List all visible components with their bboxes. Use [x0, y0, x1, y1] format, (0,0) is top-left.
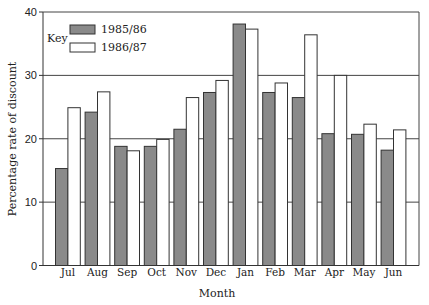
x-tick-label: Apr — [324, 266, 345, 278]
legend-swatch-1986-87 — [70, 43, 95, 52]
bar-jan-1985-86 — [233, 24, 245, 265]
x-tick-label: Feb — [265, 266, 285, 278]
y-tick-label: 30 — [25, 69, 37, 81]
x-tick-label: Jun — [384, 266, 403, 278]
bar-nov-1986-87 — [186, 98, 198, 266]
legend-title: Key — [47, 32, 68, 45]
bar-feb-1986-87 — [275, 83, 287, 266]
bar-jul-1986-87 — [68, 108, 80, 266]
bar-oct-1986-87 — [157, 139, 169, 265]
bar-may-1985-86 — [352, 134, 364, 265]
x-tick-label: Jul — [60, 266, 76, 278]
bar-sep-1986-87 — [127, 151, 139, 266]
bar-aug-1985-86 — [85, 112, 97, 265]
bar-mar-1986-87 — [305, 35, 317, 266]
bar-jan-1986-87 — [246, 29, 258, 265]
x-axis-title: Month — [199, 287, 235, 300]
y-tick-label: 20 — [25, 133, 37, 145]
y-tick-label: 0 — [31, 260, 37, 272]
x-axis-labels: JulAugSepOctNovDecJanFebMarAprMayJun — [60, 266, 403, 278]
bar-jun-1986-87 — [394, 130, 406, 266]
bar-mar-1985-86 — [292, 98, 304, 266]
y-tick-label: 40 — [25, 6, 37, 18]
x-tick-label: Nov — [176, 266, 198, 278]
x-tick-label: Oct — [147, 266, 166, 278]
y-axis-title: Percentage rate of discount — [6, 61, 19, 216]
bar-dec-1986-87 — [216, 80, 228, 265]
x-tick-label: Jan — [236, 266, 254, 278]
legend-swatch-1985-86 — [70, 25, 95, 34]
bar-jul-1985-86 — [56, 169, 68, 266]
bars — [56, 24, 406, 265]
bar-apr-1986-87 — [334, 75, 346, 265]
legend-label-1985-86: 1985/86 — [101, 23, 147, 36]
bar-jun-1985-86 — [381, 150, 393, 265]
bar-feb-1985-86 — [263, 92, 275, 265]
x-tick-label: Aug — [86, 266, 108, 278]
y-tick-label: 10 — [25, 196, 37, 208]
x-tick-label: Mar — [294, 266, 317, 278]
bar-oct-1985-86 — [144, 146, 156, 265]
legend-label-1986-87: 1986/87 — [101, 41, 147, 54]
x-tick-label: Dec — [206, 266, 227, 278]
x-tick-label: Sep — [117, 266, 137, 278]
bar-dec-1985-86 — [204, 92, 216, 265]
y-axis-ticks: 010203040 — [25, 6, 43, 272]
bar-aug-1986-87 — [98, 92, 110, 266]
bar-sep-1985-86 — [115, 146, 127, 265]
bar-may-1986-87 — [364, 124, 376, 265]
legend: Key 1985/86 1986/87 — [47, 23, 147, 54]
bar-nov-1985-86 — [174, 129, 186, 265]
bar-chart: 010203040 JulAugSepOctNovDecJanFebMarApr… — [0, 0, 429, 305]
x-tick-label: May — [352, 266, 375, 278]
bar-apr-1985-86 — [322, 134, 334, 266]
